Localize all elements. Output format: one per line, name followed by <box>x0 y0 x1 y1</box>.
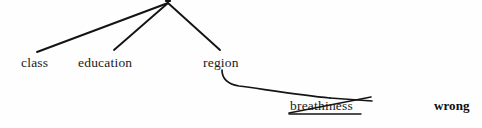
diagram-canvas: class education region breathiness wrong <box>0 0 482 128</box>
node-label-breathiness: breathiness <box>290 99 353 113</box>
node-label-education: education <box>78 56 132 70</box>
node-label-class: class <box>21 56 48 70</box>
branch-class-line <box>37 3 168 52</box>
annotation-wrong: wrong <box>434 99 470 112</box>
branch-education-line <box>114 3 168 50</box>
tree-branches <box>37 1 220 52</box>
node-label-region: region <box>203 56 239 70</box>
region-to-breathiness-curve <box>222 70 330 98</box>
branch-region-line <box>168 3 220 50</box>
tree-drawing <box>0 0 482 128</box>
